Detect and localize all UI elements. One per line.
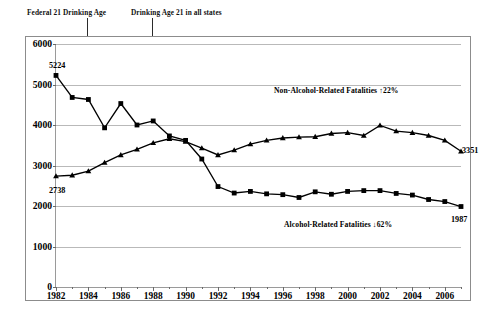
- data-point-marker: [329, 192, 334, 197]
- x-tick-mark: [364, 287, 365, 289]
- x-tick-label: 2002: [371, 292, 390, 301]
- data-label-nonalcohol-start: 2738: [49, 187, 65, 195]
- annotation-label-all-states: Drinking Age 21 in all states: [131, 8, 222, 17]
- plot-area: 0100020003000400050006000 19821984198619…: [55, 44, 461, 288]
- data-point-marker: [459, 204, 464, 209]
- data-point-marker: [70, 95, 75, 100]
- data-point-marker: [345, 189, 350, 194]
- x-tick-label: 1994: [241, 292, 260, 301]
- y-tick-label: 2000: [33, 201, 52, 211]
- data-point-marker: [394, 191, 399, 196]
- x-tick-label: 1982: [47, 292, 66, 301]
- data-point-marker: [313, 189, 318, 194]
- x-tick-label: 2004: [403, 292, 422, 301]
- x-tick-label: 1990: [176, 292, 195, 301]
- x-tick-mark: [202, 287, 203, 289]
- data-point-marker: [54, 73, 59, 78]
- y-tick-label: 1000: [33, 242, 52, 252]
- x-tick-mark: [429, 287, 430, 289]
- data-label-nonalcohol-end: 3351: [462, 147, 478, 155]
- y-tick-label: 3000: [33, 161, 52, 171]
- data-point-marker: [102, 125, 107, 130]
- data-point-marker: [151, 119, 156, 124]
- x-tick-mark: [396, 287, 397, 289]
- series-note-nonalcohol: Non-Alcohol-Related Fatalities ↑22%: [274, 86, 399, 95]
- data-point-marker: [118, 101, 123, 106]
- x-tick-mark: [299, 287, 300, 289]
- data-point-marker: [135, 123, 140, 128]
- x-tick-mark: [137, 287, 138, 289]
- data-point-marker: [442, 199, 447, 204]
- y-tick-label: 6000: [33, 39, 52, 49]
- x-tick-label: 1984: [79, 292, 98, 301]
- annotation-label-federal-drinking-age: Federal 21 Drinking Age: [27, 8, 106, 17]
- x-tick-mark: [169, 287, 170, 289]
- x-tick-mark: [267, 287, 268, 289]
- x-tick-label: 1996: [273, 292, 292, 301]
- data-label-alcohol-end: 1987: [451, 216, 467, 224]
- series-line: [56, 125, 461, 176]
- y-tick-label: 5000: [33, 80, 52, 90]
- data-point-marker: [426, 197, 431, 202]
- data-point-marker: [377, 123, 383, 128]
- y-tick-label: 4000: [33, 120, 52, 130]
- x-tick-label: 1992: [209, 292, 228, 301]
- x-tick-label: 2006: [435, 292, 454, 301]
- data-point-marker: [248, 189, 253, 194]
- x-tick-label: 1988: [144, 292, 163, 301]
- x-tick-label: 2000: [338, 292, 357, 301]
- series-note-alcohol: Alcohol-Related Fatalities ↓62%: [284, 220, 392, 229]
- data-point-marker: [297, 195, 302, 200]
- data-point-marker: [280, 192, 285, 197]
- series-line: [56, 75, 461, 206]
- chart-canvas: Federal 21 Drinking Age Drinking Age 21 …: [0, 0, 480, 327]
- x-tick-mark: [234, 287, 235, 289]
- x-tick-mark: [105, 287, 106, 289]
- data-point-marker: [378, 188, 383, 193]
- x-tick-mark: [331, 287, 332, 289]
- x-tick-label: 1986: [111, 292, 130, 301]
- data-point-marker: [86, 97, 91, 102]
- series-lines: [56, 44, 461, 287]
- x-tick-mark: [72, 287, 73, 289]
- data-point-marker: [232, 191, 237, 196]
- data-point-marker: [410, 193, 415, 198]
- data-point-marker: [216, 184, 221, 189]
- data-label-alcohol-start: 5224: [49, 62, 65, 70]
- data-point-marker: [361, 188, 366, 193]
- data-point-marker: [199, 157, 204, 162]
- data-point-marker: [264, 191, 269, 196]
- x-tick-label: 1998: [306, 292, 325, 301]
- x-tick-mark: [461, 287, 462, 289]
